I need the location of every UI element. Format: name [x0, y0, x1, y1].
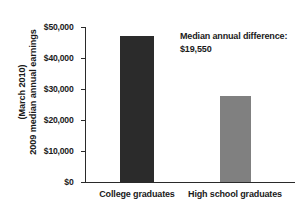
x-axis-label-high-school-graduates: High school graduates — [188, 189, 282, 199]
y-tick-label-1: $10,000 — [44, 146, 74, 156]
bar-high-school-graduates — [220, 96, 251, 182]
annotation-line-1: Median annual difference: — [180, 30, 287, 43]
y-tick-label-0: $0 — [64, 177, 73, 187]
annotation-line-2: $19,550 — [180, 43, 287, 56]
y-axis-title-line-2: (March 2010) — [17, 65, 28, 120]
y-tick-0: $0 — [81, 182, 86, 183]
bar-college-graduates — [120, 36, 154, 182]
y-tick-1: $10,000 — [81, 151, 86, 152]
x-axis-line — [85, 182, 295, 183]
y-axis-title: 2009 median annual earnings (March 2010) — [13, 2, 43, 182]
annotation-median-difference: Median annual difference: $19,550 — [180, 30, 287, 55]
y-tick-label-4: $40,000 — [44, 53, 74, 63]
y-tick-label-5: $50,000 — [44, 22, 74, 32]
x-axis-label-college-graduates: College graduates — [99, 189, 174, 199]
bar-chart: 2009 median annual earnings (March 2010)… — [0, 0, 306, 210]
y-axis-line — [85, 27, 86, 182]
y-tick-label-3: $30,000 — [44, 84, 74, 94]
y-tick-2: $20,000 — [81, 120, 86, 121]
y-axis-title-line-1: 2009 median annual earnings — [28, 29, 39, 154]
y-tick-4: $40,000 — [81, 58, 86, 59]
y-tick-5: $50,000 — [81, 27, 86, 28]
y-tick-label-2: $20,000 — [44, 115, 74, 125]
y-tick-3: $30,000 — [81, 89, 86, 90]
